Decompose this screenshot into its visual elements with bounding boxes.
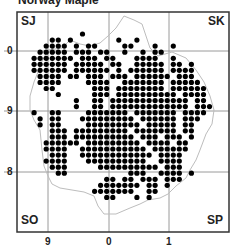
record-dot	[140, 56, 145, 61]
record-dot	[110, 128, 115, 133]
record-dot	[159, 122, 164, 127]
record-dot	[31, 110, 36, 115]
record-dot	[104, 56, 109, 61]
record-dot	[98, 146, 103, 151]
record-dot	[201, 98, 206, 103]
record-dot	[134, 38, 139, 43]
record-dot	[128, 183, 133, 188]
record-dot	[31, 68, 36, 73]
record-dot	[92, 80, 97, 85]
record-dot	[134, 92, 139, 97]
record-dot	[98, 104, 103, 109]
record-dot	[165, 74, 170, 79]
record-dot	[147, 177, 152, 182]
y-axis-label-8: 8	[7, 166, 13, 177]
record-dot	[50, 74, 55, 79]
record-dot	[62, 146, 67, 151]
record-dot	[116, 74, 121, 79]
record-dot	[165, 146, 170, 151]
record-dot	[50, 110, 55, 115]
record-dot	[92, 86, 97, 91]
record-dot	[86, 153, 91, 158]
record-dot	[98, 86, 103, 91]
record-dot	[50, 122, 55, 127]
record-dot	[68, 140, 73, 145]
record-dot	[122, 74, 127, 79]
record-dot	[56, 38, 61, 43]
record-dot	[153, 86, 158, 91]
record-dot	[177, 98, 182, 103]
record-dot	[171, 104, 176, 109]
record-dot	[86, 128, 91, 133]
record-dot	[171, 92, 176, 97]
record-dot	[140, 98, 145, 103]
record-dot	[122, 165, 127, 170]
record-dot	[44, 80, 49, 85]
record-dot	[116, 128, 121, 133]
record-dot	[110, 62, 115, 67]
record-dot	[159, 171, 164, 176]
record-dot	[56, 68, 61, 73]
record-dot	[122, 140, 127, 145]
record-dot	[201, 92, 206, 97]
record-dot	[153, 183, 158, 188]
record-dot	[189, 92, 194, 97]
record-dot	[50, 159, 55, 164]
record-dot	[195, 86, 200, 91]
record-dot	[104, 146, 109, 151]
record-dot	[50, 50, 55, 55]
record-dot	[86, 68, 91, 73]
record-dot	[98, 62, 103, 67]
record-dot	[147, 140, 152, 145]
record-dot	[98, 98, 103, 103]
record-dot	[147, 92, 152, 97]
gridlines	[4, 12, 229, 232]
record-dot	[134, 183, 139, 188]
record-dot	[122, 104, 127, 109]
record-dot	[50, 68, 55, 73]
record-dot	[44, 56, 49, 61]
record-dot	[104, 50, 109, 55]
record-dot	[62, 140, 67, 145]
record-dot	[104, 183, 109, 188]
record-dot	[183, 80, 188, 85]
record-dot	[50, 146, 55, 151]
record-dot	[195, 104, 200, 109]
record-dot	[177, 134, 182, 139]
record-dot	[104, 177, 109, 182]
record-dot	[171, 62, 176, 67]
record-dot	[74, 74, 79, 79]
record-dot	[56, 134, 61, 139]
record-dot	[177, 104, 182, 109]
record-dot	[74, 128, 79, 133]
record-dot	[171, 44, 176, 49]
record-dot	[31, 62, 36, 67]
record-dot	[38, 56, 43, 61]
record-dot	[153, 74, 158, 79]
record-dot	[153, 146, 158, 151]
record-dot	[92, 44, 97, 49]
y-axis-label-9: 9	[7, 105, 13, 116]
record-dot	[98, 153, 103, 158]
record-dot	[104, 140, 109, 145]
record-dot	[56, 159, 61, 164]
record-dot	[128, 98, 133, 103]
record-dot	[159, 128, 164, 133]
record-dot	[128, 153, 133, 158]
record-dot	[98, 122, 103, 127]
record-dot	[122, 177, 127, 182]
record-dot	[177, 86, 182, 91]
record-dot	[171, 146, 176, 151]
record-dot	[147, 116, 152, 121]
record-dot	[140, 159, 145, 164]
record-dot	[189, 128, 194, 133]
record-dot	[80, 56, 85, 61]
record-dot	[92, 68, 97, 73]
record-dot	[56, 128, 61, 133]
record-dot	[98, 165, 103, 170]
record-dot	[128, 92, 133, 97]
record-dot	[140, 104, 145, 109]
record-dot	[195, 92, 200, 97]
record-dot	[171, 68, 176, 73]
record-dot	[140, 86, 145, 91]
